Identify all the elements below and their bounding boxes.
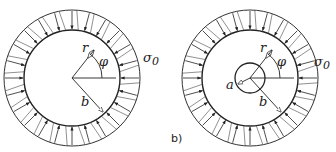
segment-divider (120, 65, 139, 72)
load-arrow (25, 113, 38, 126)
segment-divider (186, 56, 206, 60)
segment-divider (256, 126, 263, 145)
load-arrow (107, 31, 120, 44)
load-arrow (233, 125, 238, 142)
segment-divider (101, 116, 116, 129)
segment-divider (228, 122, 232, 142)
segment-divider (59, 11, 66, 30)
figure-b: r φ b a σ0 b) (171, 10, 330, 146)
segment-divider (8, 56, 28, 60)
load-arrow (55, 13, 60, 30)
label-phi: φ (277, 54, 287, 69)
label-b: b (81, 94, 89, 109)
load-arrow (185, 91, 202, 96)
load-arrow (85, 13, 90, 30)
load-arrow (285, 113, 298, 126)
load-arrow (203, 113, 216, 126)
label-r: r (82, 40, 89, 55)
segment-divider (110, 33, 123, 48)
segment-divider (205, 27, 220, 40)
stress-diagrams: r φ b σ0 r φ b a σ0 b) (0, 0, 336, 152)
load-arrow (263, 125, 268, 142)
segment-divider (90, 122, 101, 139)
segment-divider (120, 83, 140, 84)
segment-divider (66, 126, 67, 146)
segment-divider (4, 72, 24, 73)
figure-caption: b) (171, 132, 182, 145)
segment-divider (21, 107, 34, 122)
load-arrow (297, 61, 314, 66)
radius-a-line (238, 78, 250, 84)
segment-divider (189, 96, 206, 107)
load-arrow (297, 91, 314, 96)
segment-divider (294, 96, 314, 100)
load-arrow (25, 31, 38, 44)
load-arrow (119, 61, 136, 66)
load-arrow (185, 61, 202, 66)
load-arrow (203, 31, 216, 44)
label-sigma0: σ0 (143, 50, 159, 68)
segment-divider (183, 84, 202, 91)
segment-divider (90, 14, 94, 34)
segment-divider (237, 11, 244, 30)
segment-divider (199, 107, 212, 122)
label-a: a (226, 77, 234, 92)
segment-divider (268, 122, 279, 139)
segment-divider (5, 84, 24, 91)
load-arrow (55, 125, 60, 142)
load-arrow (85, 125, 90, 142)
label-sigma0: σ0 (314, 54, 330, 72)
label-phi: φ (99, 54, 109, 69)
segment-divider (279, 116, 294, 129)
load-arrow (119, 91, 136, 96)
segment-divider (42, 17, 53, 34)
load-arrow (285, 31, 298, 44)
segment-divider (288, 33, 301, 48)
segment-divider (77, 10, 78, 30)
label-r: r (260, 40, 267, 55)
load-arrow (233, 13, 238, 30)
segment-divider (244, 126, 245, 146)
segment-divider (50, 122, 54, 142)
segment-divider (78, 126, 85, 145)
label-b: b (259, 94, 267, 109)
load-arrow (107, 113, 120, 126)
load-arrow (7, 91, 24, 96)
segment-divider (268, 14, 272, 34)
segment-divider (294, 48, 311, 59)
figure-a: r φ b σ0 (4, 10, 159, 146)
segment-divider (116, 96, 136, 100)
load-arrow (263, 13, 268, 30)
segment-divider (11, 96, 28, 107)
segment-divider (298, 83, 318, 84)
segment-divider (182, 72, 202, 73)
segment-divider (27, 27, 42, 40)
segment-divider (220, 17, 231, 34)
load-arrow (7, 61, 24, 66)
segment-divider (255, 10, 256, 30)
segment-divider (116, 48, 133, 59)
